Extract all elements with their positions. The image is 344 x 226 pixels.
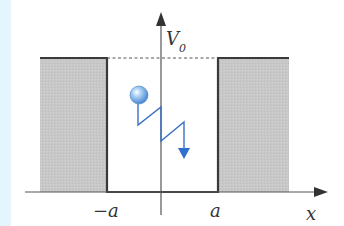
x-axis-arrow-icon: [314, 187, 328, 197]
left-barrier: [40, 58, 107, 192]
right-barrier: [218, 58, 289, 192]
x-label: x: [306, 203, 316, 224]
side-strip: [0, 0, 11, 226]
down-arrow-icon: [178, 148, 190, 159]
potential-well-diagram: V 0 −a a x: [0, 0, 344, 226]
minus-a-label: −a: [93, 200, 119, 221]
v-subscript: 0: [179, 42, 186, 55]
particle-ball: [130, 86, 148, 104]
particle-path: [138, 104, 184, 148]
a-label: a: [210, 200, 221, 221]
y-axis-arrow-icon: [156, 12, 166, 26]
